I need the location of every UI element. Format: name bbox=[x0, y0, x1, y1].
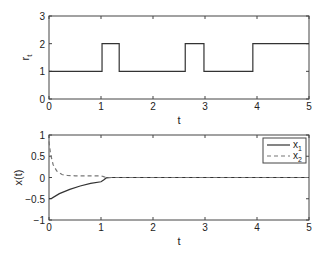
x-tick-label: 5 bbox=[306, 222, 312, 233]
y-tick-label: 1 bbox=[39, 66, 45, 77]
axes-frame bbox=[49, 16, 309, 99]
x-tick-label: 5 bbox=[306, 101, 312, 112]
y-axis-label: rt bbox=[19, 54, 34, 61]
x-axis-label: t bbox=[177, 235, 180, 247]
x-tick-label: 0 bbox=[46, 101, 52, 112]
legend: x1x2 bbox=[263, 138, 306, 163]
y-tick-label: 3 bbox=[39, 11, 45, 22]
x-axis-label: t bbox=[177, 114, 180, 126]
x-tick-label: 4 bbox=[254, 222, 260, 233]
y-tick-label: 1 bbox=[39, 130, 45, 141]
top-plot: 0123450123trt bbox=[19, 11, 312, 126]
x-tick-label: 4 bbox=[254, 101, 260, 112]
figure: 0123450123trt012345−1−0.500.51tx(t)x1x2 bbox=[0, 0, 327, 254]
y-axis-label: x(t) bbox=[12, 170, 24, 186]
y-tick-label: −0.5 bbox=[25, 194, 45, 205]
series-rt bbox=[49, 44, 309, 72]
y-tick-label: −1 bbox=[34, 215, 46, 226]
y-tick-label: 0.5 bbox=[31, 151, 45, 162]
y-tick-label: 2 bbox=[39, 39, 45, 50]
x-tick-label: 2 bbox=[150, 101, 156, 112]
bottom-plot: 012345−1−0.500.51tx(t)x1x2 bbox=[12, 130, 312, 247]
x-tick-label: 1 bbox=[98, 101, 104, 112]
x-tick-label: 0 bbox=[46, 222, 52, 233]
x-tick-label: 3 bbox=[202, 101, 208, 112]
y-tick-label: 0 bbox=[39, 94, 45, 105]
x-tick-label: 3 bbox=[202, 222, 208, 233]
series-x1 bbox=[49, 178, 309, 199]
x-tick-label: 2 bbox=[150, 222, 156, 233]
x-tick-label: 1 bbox=[98, 222, 104, 233]
y-tick-label: 0 bbox=[39, 173, 45, 184]
